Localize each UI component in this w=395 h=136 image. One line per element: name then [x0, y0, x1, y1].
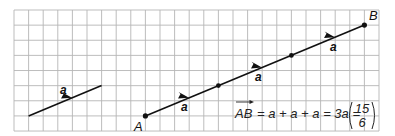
point-b-label: B	[369, 8, 378, 23]
point-a-dot	[143, 113, 148, 118]
column-vector-top: 15	[355, 101, 370, 116]
equation: AB = a + a + a = 3a = 15 6	[230, 100, 375, 130]
vector-diagram: a a a a A B AB = a + a + a = 3a = 15	[0, 0, 395, 136]
arrowhead-icon	[178, 92, 189, 99]
equation-lhs: AB	[234, 106, 253, 121]
vector-a: a	[29, 83, 102, 116]
point-dot	[289, 53, 294, 58]
arrowhead-icon	[251, 62, 262, 69]
segment-label-a: a	[255, 70, 262, 84]
equation-rhs: = a + a + a = 3a =	[257, 106, 360, 121]
point-b-dot	[362, 23, 367, 28]
arrowhead-icon	[324, 32, 335, 39]
point-a-label: A	[133, 119, 143, 134]
segment-label-a: a	[181, 100, 188, 114]
segment-label-a: a	[330, 40, 337, 54]
equation-sum: = a + a + a = 3a =	[257, 106, 360, 121]
point-dot	[216, 83, 221, 88]
vector-a-label: a	[60, 83, 67, 97]
column-vector-bottom: 6	[358, 115, 366, 130]
